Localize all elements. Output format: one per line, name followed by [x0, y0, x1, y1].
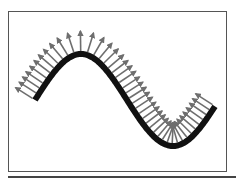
curve-with-normals-figure: [0, 0, 236, 181]
normal-arrow: [150, 115, 165, 128]
separator-rule: [8, 176, 236, 178]
normal-arrow: [177, 119, 191, 133]
normal-arrow: [68, 33, 74, 52]
normal-arrow: [180, 116, 195, 129]
normal-arrow: [88, 33, 94, 52]
normal-arrow: [94, 38, 104, 55]
normal-arrow: [57, 38, 67, 55]
normal-arrow: [183, 112, 199, 124]
normal-arrow: [154, 118, 169, 132]
sine-curve: [35, 54, 215, 146]
normal-arrow: [146, 111, 162, 123]
